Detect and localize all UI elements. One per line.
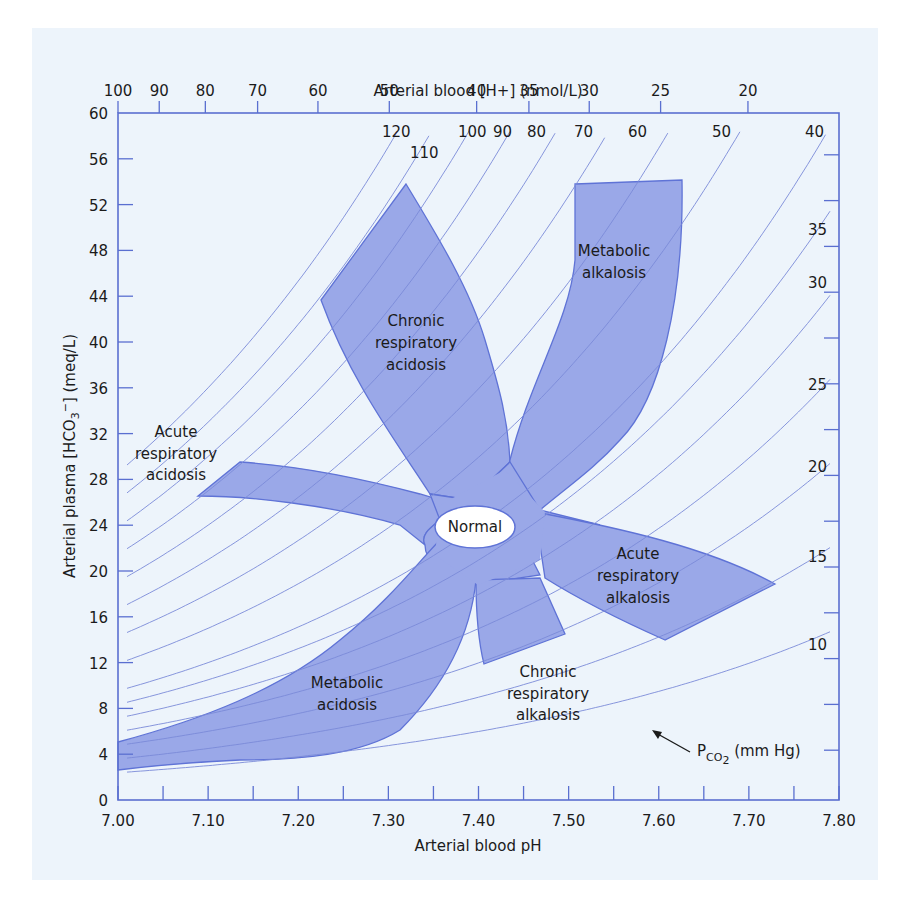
y-tick-12: 12 (89, 655, 108, 673)
isopleth-label-50: 50 (712, 123, 731, 141)
svg-text:respiratory: respiratory (135, 445, 217, 463)
y-tick-40: 40 (89, 334, 108, 352)
isopleth-label-30: 30 (808, 274, 827, 292)
top-tick-70: 70 (248, 82, 267, 100)
x-tick-7.00: 7.00 (101, 812, 134, 830)
isopleth-label-100: 100 (458, 123, 487, 141)
top-tick-60: 60 (308, 82, 327, 100)
isopleth-label-15: 15 (808, 548, 827, 566)
x-tick-7.30: 7.30 (372, 812, 405, 830)
y-tick-36: 36 (89, 380, 108, 398)
arrowhead-icon (652, 730, 662, 739)
y-tick-28: 28 (89, 471, 108, 489)
y-tick-32: 32 (89, 426, 108, 444)
x-tick-7.20: 7.20 (282, 812, 315, 830)
top-tick-80: 80 (196, 82, 215, 100)
y-tick-56: 56 (89, 151, 108, 169)
svg-text:PCO2 (mm Hg): PCO2 (mm Hg) (697, 742, 801, 767)
svg-text:Metabolic: Metabolic (311, 674, 384, 692)
isopleth-label-40: 40 (805, 123, 824, 141)
isopleth-label-110: 110 (410, 144, 439, 162)
svg-text:Metabolic: Metabolic (578, 242, 651, 260)
isopleth-label-10: 10 (808, 636, 827, 654)
left-axis-title: Arterial plasma [HCO3−] (meq/L) (59, 334, 82, 578)
isopleth-label-25: 25 (808, 376, 827, 394)
y-tick-24: 24 (89, 517, 108, 535)
region-acute-respiratory-acidosis (198, 462, 440, 545)
bottom-axis-title: Arterial blood pH (414, 837, 541, 855)
y-tick-8: 8 (98, 700, 108, 718)
svg-text:acidosis: acidosis (386, 356, 446, 374)
x-tick-7.80: 7.80 (822, 812, 855, 830)
isopleth-label-120: 120 (382, 123, 411, 141)
x-tick-7.60: 7.60 (642, 812, 675, 830)
svg-text:Chronic: Chronic (520, 663, 577, 681)
svg-text:Acute: Acute (617, 545, 660, 563)
svg-text:alkalosis: alkalosis (606, 589, 670, 607)
svg-text:alkalosis: alkalosis (582, 264, 646, 282)
region-metabolic-alkalosis (500, 180, 682, 510)
y-tick-4: 4 (98, 746, 108, 764)
x-tick-7.50: 7.50 (552, 812, 585, 830)
y-tick-52: 52 (89, 197, 108, 215)
x-tick-7.10: 7.10 (191, 812, 224, 830)
top-tick-20: 20 (738, 82, 757, 100)
isopleth-label-70: 70 (574, 123, 593, 141)
top-tick-100: 100 (104, 82, 133, 100)
region-chronic-respiratory-alkalosis (476, 578, 565, 664)
isopleth-label-90: 90 (493, 123, 512, 141)
isopleth-label-20: 20 (808, 458, 827, 476)
x-tick-7.40: 7.40 (462, 812, 495, 830)
top-axis-title: Arterial blood [H+] (nmol/L) (373, 82, 582, 100)
y-tick-20: 20 (89, 563, 108, 581)
normal-label: Normal (448, 518, 502, 536)
svg-text:respiratory: respiratory (507, 685, 589, 703)
svg-text:Chronic: Chronic (388, 312, 445, 330)
arrow-icon (656, 733, 690, 752)
pco2-annotation: PCO2 (mm Hg) (652, 730, 801, 767)
isopleth-label-80: 80 (527, 123, 546, 141)
svg-text:acidosis: acidosis (317, 696, 377, 714)
svg-text:acidosis: acidosis (146, 466, 206, 484)
chronic-respiratory-alkalosis-label: Chronic respiratory alkalosis (507, 663, 589, 724)
svg-text:alkalosis: alkalosis (516, 706, 580, 724)
y-tick-60: 60 (89, 105, 108, 123)
top-tick-25: 25 (651, 82, 670, 100)
y-tick-48: 48 (89, 242, 108, 260)
isopleth-label-35: 35 (808, 221, 827, 239)
y-tick-16: 16 (89, 609, 108, 627)
regions-layer (118, 180, 775, 770)
top-tick-90: 90 (150, 82, 169, 100)
svg-text:respiratory: respiratory (597, 567, 679, 585)
y-tick-44: 44 (89, 288, 108, 306)
svg-text:respiratory: respiratory (375, 334, 457, 352)
davenport-chart: 120110100908070605040353025201510 7.007.… (0, 0, 905, 909)
svg-text:Acute: Acute (155, 423, 198, 441)
acute-respiratory-acidosis-label: Acute respiratory acidosis (135, 423, 217, 484)
isopleth-label-60: 60 (628, 123, 647, 141)
x-tick-7.70: 7.70 (732, 812, 765, 830)
y-tick-0: 0 (98, 792, 108, 810)
